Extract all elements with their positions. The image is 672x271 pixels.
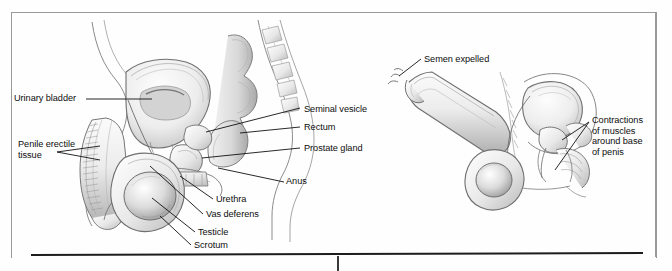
label-penile-erectile-tissue: Penile erectile tissue [18, 139, 75, 160]
bottom-column-divider [337, 256, 339, 271]
label-scrotum: Scrotum [194, 240, 228, 251]
label-seminal-vesicle: Seminal vesicle [304, 104, 367, 115]
label-semen-expelled: Semen expelled [424, 54, 489, 65]
label-prostate-gland: Prostate gland [304, 143, 363, 154]
scanned-figure-page: Urinary bladder Penile erectile tissue S… [0, 0, 672, 271]
label-urinary-bladder: Urinary bladder [14, 93, 76, 104]
label-anus: Anus [286, 176, 307, 187]
label-vas-deferens: Vas deferens [206, 209, 259, 220]
label-urethra: Urethra [216, 194, 246, 205]
label-testicle: Testicle [198, 227, 228, 238]
label-rectum: Rectum [304, 122, 335, 133]
page-frame-right-edge [655, 12, 657, 257]
label-contractions-of-muscles: Contractions of muscles around base of p… [592, 115, 643, 157]
page-frame-border [11, 12, 657, 258]
